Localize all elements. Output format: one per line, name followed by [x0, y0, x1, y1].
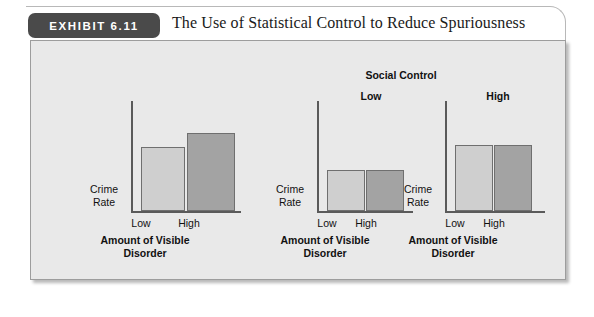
- x-tick-chart-1-high: High: [344, 217, 388, 229]
- x-axis-caption-line2: Disorder: [373, 247, 533, 260]
- bar-chart-0-low: [141, 147, 185, 211]
- bar-chart-2-high: [494, 145, 532, 211]
- x-axis-caption-line1: Amount of Visible: [280, 234, 369, 246]
- y-axis-label-chart-0: Crime Rate: [81, 183, 127, 209]
- y-axis-label-line1: Crime: [90, 183, 118, 195]
- exhibit-title: The Use of Statistical Control to Reduce…: [172, 14, 525, 32]
- y-axis-label-line1: Crime: [404, 183, 432, 195]
- y-axis-label-line1: Crime: [276, 183, 304, 195]
- exhibit-figure-panel: Social Control Low High Crime Rate Low H…: [30, 40, 566, 280]
- exhibit-container: EXHIBIT 6.11 The Use of Statistical Cont…: [26, 6, 566, 282]
- bar-chart-2-low: [455, 145, 493, 211]
- x-axis-line-chart-0: [131, 211, 241, 213]
- plot-area-chart-2: [445, 101, 549, 213]
- x-axis-caption-chart-2: Amount of Visible Disorder: [373, 234, 533, 260]
- x-axis-caption-line1: Amount of Visible: [100, 234, 189, 246]
- bar-chart-overall: Crime Rate Low High Amount of Visible Di…: [83, 101, 243, 271]
- exhibit-badge: EXHIBIT 6.11: [28, 13, 160, 38]
- y-axis-line-chart-1: [317, 101, 319, 213]
- bar-chart-0-high: [187, 133, 235, 211]
- bar-chart-social-control-high: Crime Rate Low High Amount of Visible Di…: [397, 101, 547, 271]
- y-axis-label-chart-2: Crime Rate: [395, 183, 441, 209]
- bar-chart-1-low: [327, 170, 365, 211]
- x-tick-chart-0-high: High: [167, 217, 211, 229]
- x-axis-line-chart-2: [445, 211, 545, 213]
- group-header-social-control: Social Control: [276, 69, 526, 81]
- y-axis-label-chart-1: Crime Rate: [267, 183, 313, 209]
- y-axis-label-line2: Rate: [81, 196, 127, 209]
- y-axis-label-line2: Rate: [395, 196, 441, 209]
- x-tick-chart-1-low: Low: [305, 217, 349, 229]
- y-axis-line-chart-0: [131, 101, 133, 213]
- y-axis-label-line2: Rate: [267, 196, 313, 209]
- plot-area-chart-0: [131, 101, 241, 213]
- y-axis-line-chart-2: [445, 101, 447, 213]
- x-axis-caption-chart-0: Amount of Visible Disorder: [65, 234, 225, 260]
- x-tick-chart-2-high: High: [472, 217, 516, 229]
- x-tick-chart-0-low: Low: [119, 217, 163, 229]
- x-tick-chart-2-low: Low: [433, 217, 477, 229]
- exhibit-header: EXHIBIT 6.11 The Use of Statistical Cont…: [26, 6, 566, 42]
- x-axis-caption-line1: Amount of Visible: [408, 234, 497, 246]
- x-axis-caption-line2: Disorder: [65, 247, 225, 260]
